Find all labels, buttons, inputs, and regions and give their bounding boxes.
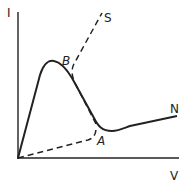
y-axis-label: I: [7, 6, 11, 20]
point-b-label: B: [62, 54, 70, 68]
point-a-label: A: [96, 134, 105, 148]
point-n-label: N: [170, 102, 179, 116]
point-s-label: S: [104, 11, 112, 25]
dashed-branch-oa: [18, 128, 96, 158]
x-axis-label: V: [170, 169, 179, 183]
iv-diagram: I V B A S N: [0, 0, 189, 183]
